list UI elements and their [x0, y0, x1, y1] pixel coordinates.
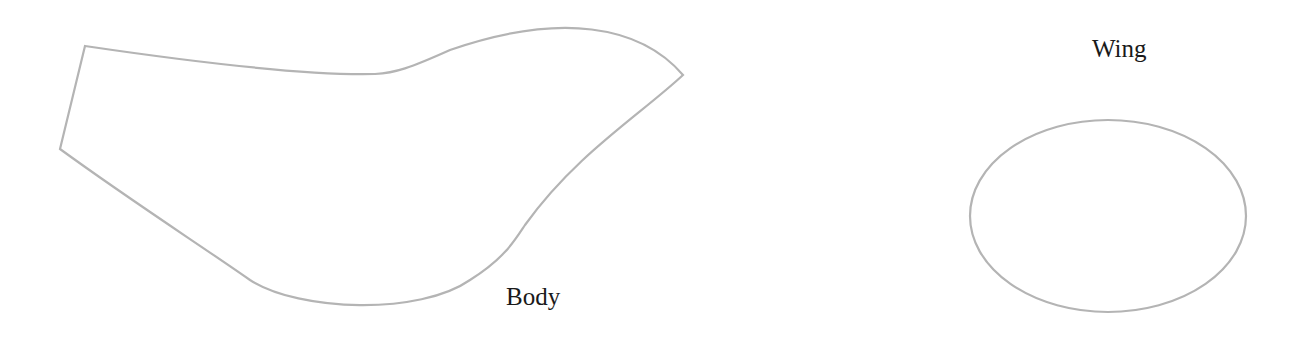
wing-shape — [970, 120, 1246, 312]
diagram-canvas: Body Wing — [0, 0, 1303, 340]
wing-label: Wing — [1092, 35, 1147, 62]
body-shape — [60, 28, 683, 305]
body-label: Body — [506, 283, 561, 310]
